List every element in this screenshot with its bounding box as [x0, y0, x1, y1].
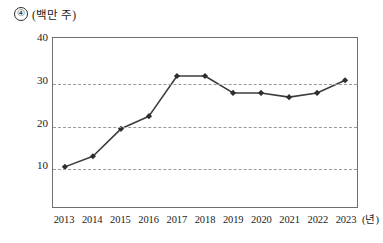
y-tick-30: 30	[22, 74, 48, 85]
data-point-2021	[286, 94, 292, 100]
series-polyline	[65, 76, 345, 167]
gridline-30	[53, 84, 357, 85]
y-tick-40: 40	[22, 32, 48, 43]
data-point-2020	[258, 90, 264, 96]
y-axis-tick-labels: 10203040	[20, 37, 48, 208]
x-axis-tick-labels: 2013201420152016201720182019202020212022…	[52, 213, 358, 231]
series-markers	[62, 73, 348, 170]
item-number-badge: ④	[14, 7, 28, 21]
chart-header: ④ (백만 주)	[14, 6, 76, 22]
gridline-10	[53, 169, 357, 170]
y-axis-unit-label: (백만 주)	[32, 6, 76, 22]
data-series-line	[53, 38, 357, 207]
plot-area	[52, 37, 358, 208]
line-chart-figure: ④ (백만 주) 10203040 2013201420152016201720…	[0, 0, 383, 243]
gridline-20	[53, 127, 357, 128]
y-tick-20: 20	[22, 117, 48, 128]
data-point-2022	[314, 90, 320, 96]
y-tick-10: 10	[22, 160, 48, 171]
data-point-2023	[342, 77, 348, 83]
x-axis-unit-label: (년)	[362, 213, 379, 227]
